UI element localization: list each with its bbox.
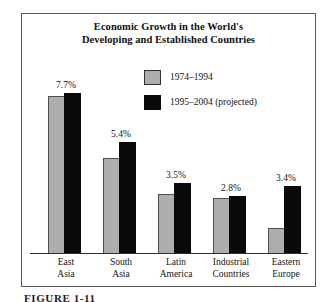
bar-industrial-countries-1995-2004 xyxy=(229,196,246,253)
bars-east-asia: 7.7% xyxy=(48,43,84,253)
x-axis-label-latin-america-line-2: America xyxy=(145,269,207,281)
bar-value-south-asia: 5.4% xyxy=(93,129,149,139)
figure-caption: FIGURE 1-11 xyxy=(24,292,96,302)
bar-value-eastern-europe: 3.4% xyxy=(258,173,314,183)
bar-group-east-asia: 7.7% xyxy=(48,43,84,253)
bar-eastern-europe-1995-2004 xyxy=(284,186,301,253)
x-axis-label-eastern-europe-line-2: Europe xyxy=(255,269,317,281)
x-axis-label-industrial-countries: Industrial Countries xyxy=(200,257,262,280)
x-axis-label-east-asia-line-2: Asia xyxy=(35,269,97,281)
plot-area: 7.7% 5.4% 3.5% 2.8% xyxy=(22,14,317,288)
x-axis-label-south-asia-line-2: Asia xyxy=(90,269,152,281)
bar-value-latin-america: 3.5% xyxy=(148,170,204,180)
bars-industrial-countries: 2.8% xyxy=(213,43,249,253)
x-axis-label-latin-america: Latin America xyxy=(145,257,207,280)
bar-group-industrial-countries: 2.8% xyxy=(213,43,249,253)
bar-latin-america-1974-1994 xyxy=(158,194,175,253)
bar-industrial-countries-1974-1994 xyxy=(213,198,230,253)
x-axis-label-eastern-europe: Eastern Europe xyxy=(255,257,317,280)
bars-latin-america: 3.5% xyxy=(158,43,194,253)
x-axis-label-east-asia: East Asia xyxy=(35,257,97,280)
bar-group-eastern-europe: 3.4% xyxy=(268,43,304,253)
x-axis-label-south-asia-line-1: South xyxy=(90,257,152,269)
bars-south-asia: 5.4% xyxy=(103,43,139,253)
bar-south-asia-1974-1994 xyxy=(103,158,120,253)
bar-east-asia-1974-1994 xyxy=(48,96,65,253)
x-axis-label-eastern-europe-line-1: Eastern xyxy=(255,257,317,269)
bar-south-asia-1995-2004 xyxy=(119,142,136,253)
x-axis-label-latin-america-line-1: Latin xyxy=(145,257,207,269)
bar-value-industrial-countries: 2.8% xyxy=(203,183,259,193)
bar-east-asia-1995-2004 xyxy=(64,93,81,253)
bar-group-latin-america: 3.5% xyxy=(158,43,194,253)
bar-group-south-asia: 5.4% xyxy=(103,43,139,253)
x-axis-label-industrial-countries-line-1: Industrial xyxy=(200,257,262,269)
x-axis-label-industrial-countries-line-2: Countries xyxy=(200,269,262,281)
x-axis-label-south-asia: South Asia xyxy=(90,257,152,280)
figure-frame: Economic Growth in the World's Developin… xyxy=(21,13,316,287)
bar-value-east-asia: 7.7% xyxy=(38,80,94,90)
bar-latin-america-1995-2004 xyxy=(174,183,191,253)
bars-eastern-europe: 3.4% xyxy=(268,43,304,253)
x-axis-line xyxy=(30,253,308,254)
x-axis-label-east-asia-line-1: East xyxy=(35,257,97,269)
bar-eastern-europe-1974-1994 xyxy=(268,228,285,253)
